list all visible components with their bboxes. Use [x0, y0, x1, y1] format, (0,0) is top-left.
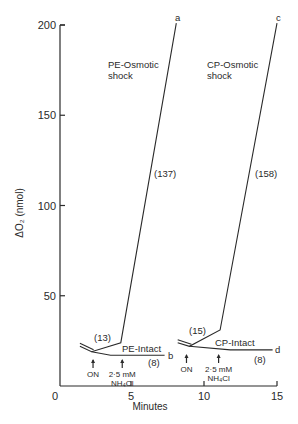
y-tick-label: 200: [38, 19, 56, 31]
arrow-label: 2·5 mM: [205, 365, 232, 374]
arrow-label-line2: NH₄Cl: [111, 379, 134, 388]
arrow-head-icon: [217, 354, 221, 358]
x-ticks: 051015: [52, 381, 283, 402]
arrow-label: ON: [180, 365, 192, 374]
y-axis-title: ΔO₂ (nmol): [14, 188, 25, 237]
chart: 50100150200 051015 Minutes ΔO₂ (nmol) PE…: [0, 0, 298, 424]
cp-shock-title-line2: shock: [207, 70, 232, 81]
cp-shock-end-label: c: [276, 12, 281, 23]
arrow-label-line2: NH₄Cl: [207, 374, 230, 383]
labels: PE-Osmotic shock CP-Osmotic shock PE-Int…: [94, 12, 281, 368]
y-ticks: 50100150200: [38, 19, 65, 302]
cp-intact-title: CP-Intact: [215, 337, 255, 348]
cp-intact-end-label: d: [275, 344, 280, 355]
cp-shock-rate-label: (158): [255, 168, 277, 179]
cp-shock-pre-rate-label: (15): [189, 325, 206, 336]
x-axis-title: Minutes: [132, 401, 167, 412]
cp-shock-title-line1: CP-Osmotic: [207, 59, 258, 70]
arrow-label: 2·5 mM: [109, 370, 136, 379]
arrow-head-icon: [184, 354, 188, 358]
pe-shock-title-line1: PE-Osmotic: [108, 59, 159, 70]
y-tick-label: 100: [38, 200, 56, 212]
pe-intact-rate-label: (8): [148, 357, 160, 368]
x-tick-label: 15: [271, 390, 283, 402]
pe-shock-end-label: a: [175, 12, 181, 23]
arrow-head-icon: [120, 359, 124, 363]
pe-intact-end-label: b: [168, 350, 173, 361]
y-tick-label: 50: [44, 290, 56, 302]
arrow-head-icon: [91, 359, 95, 363]
pe-shock-pre-rate-label: (13): [94, 332, 111, 343]
series-pe-osmotic-shock-double-trace: [80, 343, 94, 349]
cp-intact-rate-label: (8): [254, 354, 266, 365]
pe-intact-title: PE-Intact: [122, 343, 161, 354]
pe-shock-rate-label: (137): [154, 168, 176, 179]
pe-shock-title-line2: shock: [108, 70, 133, 81]
annotation-arrows: ON2·5 mMNH₄ClON2·5 mMNH₄Cl: [87, 354, 232, 388]
y-tick-label: 150: [38, 109, 56, 121]
arrow-label: ON: [87, 370, 99, 379]
x-tick-label: 10: [198, 390, 210, 402]
x-tick-label: 0: [52, 390, 58, 402]
